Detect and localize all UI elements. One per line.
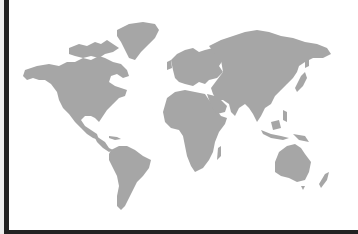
sakhalin [305,56,309,68]
madagascar [217,146,221,160]
caribbean [109,136,121,140]
australia [275,144,311,182]
south-america [109,146,151,210]
indonesia [261,130,289,140]
new-guinea [293,134,309,142]
tasmania [301,186,305,190]
greenland [117,22,159,60]
uk [167,60,172,70]
world-map [9,0,353,230]
japan [295,72,307,92]
philippines [283,110,287,122]
borneo [271,120,281,130]
new-zealand [319,172,329,188]
arctic-islands [69,40,119,58]
map-frame [4,0,358,234]
asia [209,30,331,122]
north-america [23,56,129,140]
